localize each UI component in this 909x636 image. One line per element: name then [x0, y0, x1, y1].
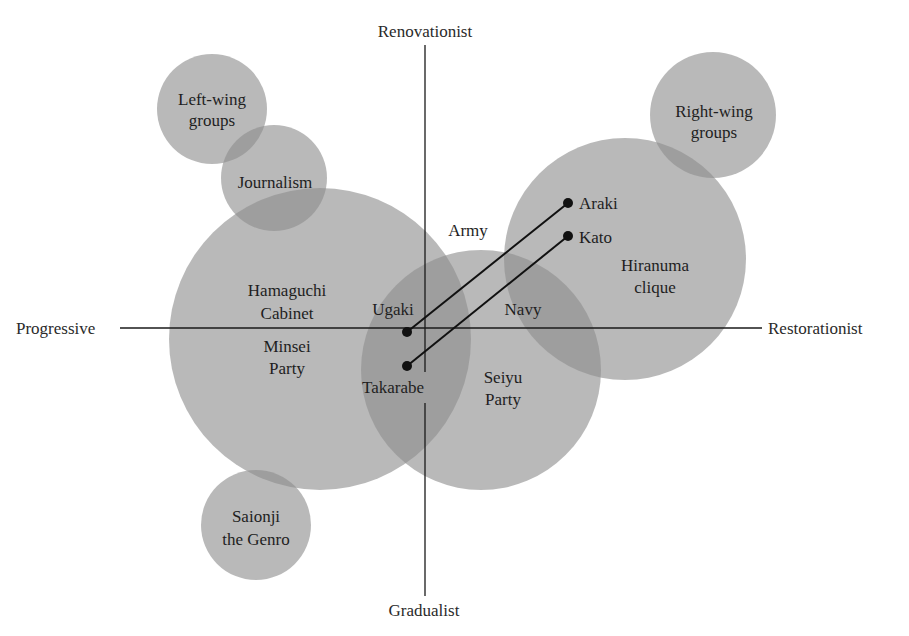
- label-minsei-line2: Party: [269, 359, 305, 378]
- label-minsei-line1: Minsei: [263, 337, 311, 356]
- axis-label-left: Progressive: [16, 319, 95, 338]
- label-saionji-line1: Saionji: [232, 507, 280, 526]
- label-journalism: Journalism: [238, 173, 313, 192]
- label-takarabe: Takarabe: [362, 378, 424, 397]
- label-hamaguchi-line1: Hamaguchi: [248, 281, 327, 300]
- axis-label-top: Renovationist: [378, 22, 473, 41]
- axis-label-right: Restorationist: [768, 319, 863, 338]
- takarabe-dot: [402, 361, 412, 371]
- kato-dot: [563, 231, 573, 241]
- label-hiranuma-line1: Hiranuma: [621, 256, 689, 275]
- label-hamaguchi-line2: Cabinet: [261, 304, 314, 323]
- axis-label-bottom: Gradualist: [389, 601, 460, 620]
- label-right-wing-line2: groups: [691, 123, 737, 142]
- label-seiyu-line2: Party: [485, 390, 521, 409]
- label-hiranuma-line2: clique: [634, 278, 676, 297]
- ugaki-dot: [402, 327, 412, 337]
- label-saionji-line2: the Genro: [222, 530, 290, 549]
- label-ugaki: Ugaki: [372, 300, 414, 319]
- label-left-wing-line1: Left-wing: [178, 90, 246, 109]
- political-diagram: Renovationist Gradualist Progressive Res…: [0, 0, 909, 636]
- araki-dot: [563, 198, 573, 208]
- label-araki: Araki: [579, 194, 618, 213]
- label-right-wing-line1: Right-wing: [675, 102, 753, 121]
- label-seiyu-line1: Seiyu: [484, 368, 523, 387]
- label-navy: Navy: [505, 300, 542, 319]
- label-kato: Kato: [579, 228, 612, 247]
- label-army: Army: [448, 221, 488, 240]
- label-left-wing-line2: groups: [189, 111, 235, 130]
